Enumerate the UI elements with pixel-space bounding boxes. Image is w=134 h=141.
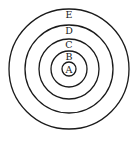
label-d: D bbox=[65, 25, 73, 36]
label-e: E bbox=[66, 9, 73, 20]
label-b: B bbox=[66, 51, 73, 62]
diagram-canvas: E D C B A bbox=[0, 0, 134, 141]
label-a: A bbox=[65, 64, 73, 75]
label-c: C bbox=[65, 39, 72, 50]
concentric-circles-diagram: E D C B A bbox=[0, 0, 134, 141]
